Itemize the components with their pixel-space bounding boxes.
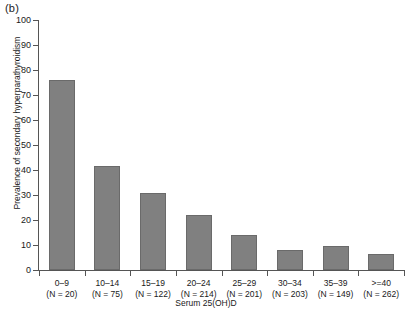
x-category-label: 15–19(N = 122) (130, 278, 176, 300)
bar (323, 246, 349, 270)
x-category-label: 30–34(N = 203) (267, 278, 313, 300)
y-tick-label-text: 20 (3, 216, 31, 225)
y-tick-mark (33, 220, 38, 221)
y-tick-mark (33, 195, 38, 196)
y-tick-mark (33, 45, 38, 46)
x-category-range: 0–9 (39, 278, 85, 289)
y-tick-mark (33, 95, 38, 96)
x-tick-mark (222, 271, 223, 276)
y-tick-label: 0 (0, 266, 31, 275)
x-category-label: >=40(N = 262) (358, 278, 404, 300)
x-tick-mark (358, 271, 359, 276)
bar (231, 235, 257, 270)
y-tick-mark (33, 270, 38, 271)
x-tick-mark (85, 271, 86, 276)
y-tick-label: 10 (0, 241, 31, 250)
x-category-range: >=40 (358, 278, 404, 289)
y-tick-label-text: 10 (3, 241, 31, 250)
y-tick-mark (33, 20, 38, 21)
y-tick-label: 100 (0, 16, 31, 25)
x-category-range: 15–19 (130, 278, 176, 289)
x-tick-mark (267, 271, 268, 276)
x-tick-mark (39, 271, 40, 276)
y-tick-mark (33, 170, 38, 171)
bar (186, 215, 212, 270)
y-axis-title: Prevalence of secondary hyperparathyroid… (13, 50, 22, 210)
panel-label: (b) (5, 2, 19, 14)
y-tick-mark (33, 245, 38, 246)
x-tick-mark (130, 271, 131, 276)
x-tick-mark (313, 271, 314, 276)
bar (140, 193, 166, 271)
bar (277, 250, 303, 270)
x-category-range: 30–34 (267, 278, 313, 289)
y-tick-label: 20 (0, 216, 31, 225)
y-tick-mark (33, 120, 38, 121)
bar-series (39, 20, 405, 270)
x-category-label: 10–14(N = 75) (85, 278, 131, 300)
y-tick-mark (33, 70, 38, 71)
bar (94, 166, 120, 270)
bar (368, 254, 394, 270)
x-category-range: 35–39 (313, 278, 359, 289)
x-category-range: 20–24 (176, 278, 222, 289)
x-tick-mark (404, 271, 405, 276)
x-category-label: 25–29(N = 201) (222, 278, 268, 300)
x-category-label: 0–9(N = 20) (39, 278, 85, 300)
figure-panel-b: (b) 0102030405060708090100 Prevalence of… (0, 0, 412, 309)
x-category-label: 20–24(N = 214) (176, 278, 222, 300)
x-axis-title: Serum 25(OH)D (0, 298, 412, 308)
y-tick-label-text: 0 (3, 266, 31, 275)
x-tick-mark (176, 271, 177, 276)
bar (49, 80, 75, 270)
y-tick-label-text: 100 (3, 16, 31, 25)
x-category-range: 25–29 (222, 278, 268, 289)
y-tick-mark (33, 145, 38, 146)
x-category-range: 10–14 (85, 278, 131, 289)
x-category-label: 35–39(N = 149) (313, 278, 359, 300)
